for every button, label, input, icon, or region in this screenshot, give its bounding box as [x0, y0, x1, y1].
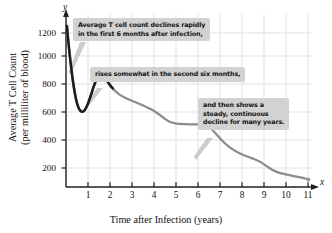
- x-axis-letter: x: [320, 177, 324, 187]
- x-tick-11: 11: [301, 190, 315, 200]
- x-tick-7: 7: [213, 190, 227, 200]
- y-axis-title-line2: (per milliliter of blood): [18, 13, 30, 183]
- x-tick-1: 1: [81, 190, 95, 200]
- x-tick-8: 8: [235, 190, 249, 200]
- callout-steady-decline: and then shows a steady, continuous decl…: [198, 98, 289, 130]
- x-tick-10: 10: [279, 190, 293, 200]
- t-cell-count-figure: 200 400 600 800 1000 1200 1 2 3 4 5 6 7 …: [0, 0, 332, 233]
- x-tick-4: 4: [147, 190, 161, 200]
- y-axis-title: Average T Cell Count (per milliliter of …: [7, 13, 30, 183]
- callout-1-line2: in the first 6 months after infection,: [78, 30, 205, 39]
- x-tick-9: 9: [257, 190, 271, 200]
- callout-leaders: [69, 42, 213, 160]
- y-axis-title-line1: Average T Cell Count: [7, 13, 19, 183]
- x-tick-3: 3: [125, 190, 139, 200]
- callout-3-line1: and then shows a: [203, 101, 284, 110]
- callout-3-line3: decline for many years.: [203, 118, 284, 127]
- x-axis-title: Time after Infection (years): [0, 214, 332, 225]
- callout-1-line1: Average T cell count declines rapidly: [78, 21, 205, 30]
- curve-endpoint-marker: [306, 178, 310, 182]
- callout-3-line2: steady, continuous: [203, 110, 284, 119]
- callout-2-line1: rises somewhat in the second six months,: [95, 70, 240, 79]
- x-axis: [66, 182, 319, 190]
- callout-first-six-months: Average T cell count declines rapidly in…: [73, 18, 210, 41]
- x-tick-5: 5: [169, 190, 183, 200]
- x-tick-6: 6: [191, 190, 205, 200]
- leader-line-3: [194, 138, 213, 160]
- x-tick-2: 2: [103, 190, 117, 200]
- callout-second-six-months: rises somewhat in the second six months,: [90, 67, 245, 82]
- y-axis-letter: y: [63, 2, 67, 12]
